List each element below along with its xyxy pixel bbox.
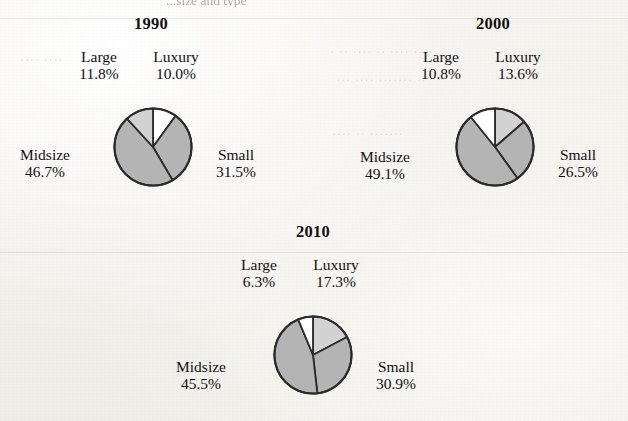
pie-label-large-value: 10.8% (404, 65, 478, 82)
pie-label-small-name: Small (198, 146, 274, 163)
pie-label-small-2010: Small 30.9% (358, 358, 434, 393)
pie-svg-2000 (454, 106, 536, 188)
pie-label-midsize-name: Midsize (0, 146, 94, 163)
pie-label-luxury-value: 17.3% (298, 273, 374, 290)
pie-label-large-name: Large (222, 256, 296, 273)
clipped-page-headline: ...size and type (166, 0, 496, 7)
pie-graphic-1990 (112, 106, 194, 188)
pie-label-midsize-value: 49.1% (336, 165, 434, 182)
clipped-page-headline-text: ...size and type (166, 0, 496, 7)
pie-svg-2010 (272, 314, 354, 396)
pie-label-large-value: 6.3% (222, 273, 296, 290)
pie-label-large-1990: Large 11.8% (62, 48, 136, 83)
pie-label-luxury-2000: Luxury 13.6% (480, 48, 556, 83)
pie-label-luxury-name: Luxury (480, 48, 556, 65)
pie-label-large-name: Large (62, 48, 136, 65)
pie-label-large-2000: Large 10.8% (404, 48, 478, 83)
pie-label-small-value: 31.5% (198, 163, 274, 180)
pie-label-luxury-2010: Luxury 17.3% (298, 256, 374, 291)
pie-label-luxury-1990: Luxury 10.0% (138, 48, 214, 83)
pie-label-midsize-1990: Midsize 46.7% (0, 146, 94, 181)
pie-label-midsize-name: Midsize (152, 358, 250, 375)
pie-label-small-value: 30.9% (358, 375, 434, 392)
pie-label-luxury-value: 13.6% (480, 65, 556, 82)
pie-label-small-value: 26.5% (540, 163, 616, 180)
pie-label-large-value: 11.8% (62, 65, 136, 82)
pie-label-midsize-2010: Midsize 45.5% (152, 358, 250, 393)
pie-label-midsize-value: 46.7% (0, 163, 94, 180)
pie-label-small-name: Small (358, 358, 434, 375)
pie-chart-2010: 2010 Large 6.3% Luxury 17.3% Midsize 45.… (168, 222, 468, 421)
pie-label-midsize-2000: Midsize 49.1% (336, 148, 434, 183)
pie-label-midsize-value: 45.5% (152, 375, 250, 392)
pie-label-luxury-name: Luxury (298, 256, 374, 273)
pie-graphic-2000 (454, 106, 536, 188)
pie-chart-2000: 2000 Large 10.8% Luxury 13.6% Midsize 49… (330, 14, 628, 224)
pie-label-midsize-name: Midsize (336, 148, 434, 165)
pie-label-luxury-name: Luxury (138, 48, 214, 65)
pie-label-small-1990: Small 31.5% (198, 146, 274, 181)
pie-label-luxury-value: 10.0% (138, 65, 214, 82)
chart-title-1990: 1990 (1, 14, 301, 34)
pie-chart-1990: 1990 Large 11.8% Luxury 10.0% Midsize 46… (4, 14, 304, 224)
pie-label-small-2000: Small 26.5% (540, 146, 616, 181)
pie-graphic-2010 (272, 314, 354, 396)
pie-svg-1990 (112, 106, 194, 188)
chart-title-2000: 2000 (343, 14, 628, 34)
chart-title-2010: 2010 (163, 222, 463, 242)
pie-label-large-name: Large (404, 48, 478, 65)
pie-label-large-2010: Large 6.3% (222, 256, 296, 291)
pie-label-small-name: Small (540, 146, 616, 163)
